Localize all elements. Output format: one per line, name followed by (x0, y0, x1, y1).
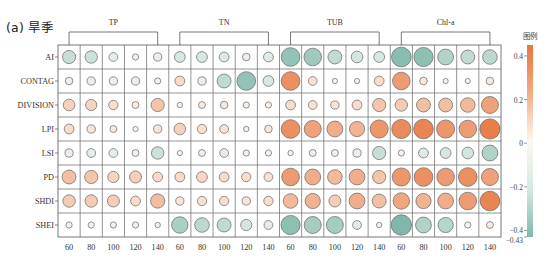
bubble (395, 99, 407, 111)
bubble (486, 77, 494, 85)
bubble (329, 195, 341, 207)
bubble (351, 51, 363, 63)
bubble (131, 196, 141, 206)
colorbar-legend: 图例 0.40.20−0.2−0.4−0.43 (506, 31, 537, 245)
colorbar-tick-label: −0.4 (509, 226, 523, 235)
bubble (243, 102, 249, 108)
bubble (242, 53, 250, 61)
bubble (151, 98, 164, 111)
bubble (85, 195, 97, 207)
column-label: 60 (65, 243, 73, 252)
bubble (155, 78, 161, 84)
bubble (62, 170, 76, 184)
bubble (64, 124, 74, 134)
bubble (243, 150, 249, 156)
bubble (465, 222, 471, 228)
bubble (197, 124, 206, 133)
bubble (154, 53, 162, 61)
bubble (132, 102, 139, 109)
bubble (420, 77, 428, 85)
column-label: 100 (329, 243, 341, 252)
bubble (175, 76, 185, 86)
row-label: PD (44, 173, 55, 182)
bubble (373, 170, 386, 183)
bubble (109, 149, 118, 158)
bubble (244, 126, 249, 131)
bubble (198, 77, 206, 85)
bubble (151, 194, 165, 208)
bubble (460, 98, 475, 113)
bubble (197, 172, 208, 183)
bubble (107, 195, 119, 207)
bubble (305, 193, 320, 208)
bubble (482, 145, 498, 161)
bubble (393, 72, 411, 90)
bubble (281, 48, 300, 67)
column-label: 120 (129, 243, 141, 252)
matrix-grid (58, 45, 501, 237)
bubble (264, 221, 273, 230)
bubble (86, 99, 97, 110)
bubble (283, 194, 298, 209)
bubble (63, 195, 75, 207)
bubble (217, 74, 231, 88)
bubble (481, 96, 498, 113)
bubble (153, 172, 163, 182)
bubble (349, 193, 365, 209)
bubble (373, 146, 386, 159)
bubble (172, 217, 188, 233)
bubble (197, 52, 208, 63)
column-label: 140 (373, 243, 385, 252)
bubble (286, 100, 296, 110)
colorbar-tick-label: −0.43 (506, 236, 524, 245)
bubble (87, 77, 95, 85)
bubble (110, 222, 116, 228)
bubble (327, 121, 343, 137)
bubble (288, 150, 293, 155)
legend-title: 图例 (523, 31, 537, 41)
group-label: TN (219, 18, 230, 27)
bubble (282, 168, 300, 186)
colorbar-tick-label: −0.2 (509, 183, 523, 192)
bubble (63, 99, 75, 111)
bubble (308, 101, 317, 110)
bubble (483, 50, 498, 65)
bubble (353, 221, 362, 230)
bubble (132, 54, 138, 60)
bubble (414, 119, 434, 139)
bubble (459, 192, 477, 210)
row-label: DIVISION (18, 101, 54, 110)
bubble (132, 222, 138, 228)
bubble (414, 168, 433, 187)
bubble (155, 222, 160, 227)
column-label: 80 (419, 243, 427, 252)
bubble (242, 197, 250, 205)
bubble (85, 170, 98, 183)
bubble (392, 119, 411, 138)
bubble (264, 196, 273, 205)
bubble (264, 52, 274, 62)
column-labels: 6080100120140608010012014060801001201406… (65, 243, 496, 252)
bubble (332, 78, 337, 83)
bubble (349, 121, 364, 136)
colorbar-tick-label: 0 (519, 139, 523, 148)
bubble (304, 216, 321, 233)
bubble (133, 126, 138, 131)
bubble (131, 77, 139, 85)
bubble (459, 120, 477, 138)
group-brackets: TPTNTUBChl-a (69, 18, 490, 45)
bubble (281, 120, 300, 139)
bubble (66, 222, 72, 228)
bubble (108, 171, 119, 182)
bubble (265, 150, 271, 156)
bubble (439, 98, 453, 112)
colorbar-tick-label: 0.4 (514, 52, 524, 61)
bubble (349, 169, 365, 185)
row-label: CONTAG (21, 77, 55, 86)
bubble (393, 193, 409, 209)
bubble (326, 216, 343, 233)
bubble (304, 120, 321, 137)
bubble (416, 217, 432, 233)
bubble (374, 52, 385, 63)
column-label: 60 (286, 243, 294, 252)
